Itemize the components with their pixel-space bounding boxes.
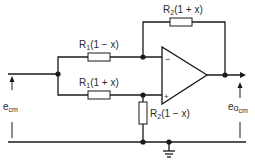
inverting-sign: − bbox=[165, 54, 170, 64]
ecm-arrow-icon bbox=[10, 76, 15, 82]
r2-ground-label: R2(1 − x) bbox=[150, 108, 190, 120]
r2-feedback-label: R2(1 + x) bbox=[163, 4, 203, 16]
noninverting-sign: + bbox=[164, 92, 169, 101]
eocm-arrow-icon bbox=[238, 82, 243, 88]
circuit-diagram: − + ecm eocm R2(1 + x) R1(1 − x) R1(1 + … bbox=[0, 0, 255, 165]
output-node bbox=[222, 72, 227, 77]
feedback-wire-right bbox=[192, 22, 225, 75]
resistor-r2-feedback bbox=[170, 18, 192, 26]
left-branch-wire bbox=[58, 57, 88, 95]
r1-top-label: R1(1 − x) bbox=[79, 39, 119, 51]
left-node bbox=[55, 71, 60, 76]
resistor-r1-top bbox=[88, 53, 110, 61]
ecm-label: ecm bbox=[3, 101, 18, 113]
eocm-label: eocm bbox=[228, 101, 248, 114]
resistor-r1-bottom bbox=[88, 91, 110, 99]
inverting-node bbox=[140, 54, 145, 59]
ground-rail-node bbox=[140, 139, 145, 144]
r1-bottom-label: R1(1 + x) bbox=[79, 77, 119, 89]
resistor-r2-ground bbox=[139, 102, 147, 124]
ground-icon bbox=[163, 142, 175, 157]
output-arrow-icon bbox=[240, 72, 246, 78]
